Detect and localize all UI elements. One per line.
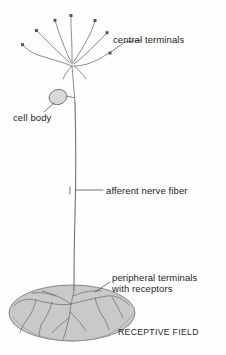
leader-cell-body — [44, 103, 54, 112]
central-branch-6 — [74, 33, 107, 64]
bouton-2 — [35, 29, 38, 32]
bouton-4 — [70, 14, 73, 17]
central-root-1 — [63, 66, 72, 79]
central-branch-2 — [37, 31, 70, 63]
label-afferent-nerve-fiber: afferent nerve fiber — [106, 186, 188, 197]
bouton-3 — [54, 19, 57, 22]
central-root-2 — [74, 66, 86, 79]
bouton-5 — [94, 19, 97, 22]
label-receptive-field: RECEPTIVE FIELD — [118, 327, 199, 337]
central-branch-4 — [71, 16, 72, 64]
cell-body-soma — [47, 87, 68, 106]
afferent-nerve-fiber — [74, 103, 76, 290]
neuron-diagram: central terminals cell body afferent ner… — [0, 0, 226, 355]
afferent-nerve-fiber-group — [74, 103, 76, 290]
neuron-illustration — [0, 0, 226, 355]
cell-body-group — [47, 87, 75, 106]
leader-lines-group — [44, 40, 142, 292]
label-cell-body: cell body — [13, 113, 51, 124]
label-peripheral-terminals-line1: peripheral terminals — [112, 272, 197, 283]
label-peripheral-terminals: peripheral terminalswith receptors — [112, 273, 197, 294]
bouton-6 — [106, 31, 109, 34]
central-terminal-boutons — [21, 14, 112, 55]
label-central-terminals: central terminals — [113, 35, 184, 46]
central-branch-3 — [55, 21, 71, 62]
central-branch-5 — [73, 21, 95, 63]
bouton-1 — [21, 43, 24, 46]
label-peripheral-terminals-line2: with receptors — [112, 283, 173, 294]
